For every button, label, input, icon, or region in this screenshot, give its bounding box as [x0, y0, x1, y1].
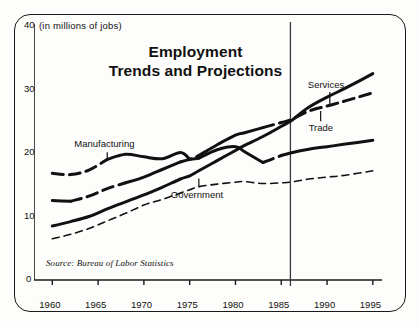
chart-svg [34, 22, 386, 294]
series-line-trade [126, 162, 181, 183]
series-line-government [52, 171, 373, 239]
x-tick-1985: 1985 [268, 299, 289, 310]
x-tick-1995: 1995 [360, 299, 381, 310]
y-tick-30: 30 [24, 83, 35, 94]
chart-figure: (in millions of jobs) Employment Trends … [0, 0, 419, 326]
x-tick-1975: 1975 [177, 299, 198, 310]
y-tick-20: 20 [24, 146, 35, 157]
series-label-government: Government [171, 189, 223, 200]
series-line-manufacturing [52, 159, 107, 174]
series-label-services: Services [308, 79, 344, 90]
x-tick-1970: 1970 [131, 299, 152, 310]
x-tick-1965: 1965 [85, 299, 106, 310]
leader-lines [107, 92, 330, 187]
series-group [52, 74, 373, 239]
series-line-trade [71, 183, 126, 202]
x-tick-1960: 1960 [39, 299, 60, 310]
y-tick-10: 10 [24, 210, 35, 221]
x-tick-1980: 1980 [222, 299, 243, 310]
series-line-manufacturing [263, 156, 281, 163]
x-tick-1990: 1990 [314, 299, 335, 310]
y-tick-40: 40 [24, 19, 35, 30]
series-label-manufacturing: Manufacturing [74, 138, 134, 149]
series-label-trade: Trade [309, 122, 333, 133]
series-line-manufacturing [281, 140, 373, 155]
series-line-trade [52, 201, 70, 202]
plot-area [34, 22, 386, 294]
series-line-manufacturing [107, 152, 189, 159]
series-line-services [52, 74, 373, 226]
y-tick-0: 0 [26, 273, 31, 284]
